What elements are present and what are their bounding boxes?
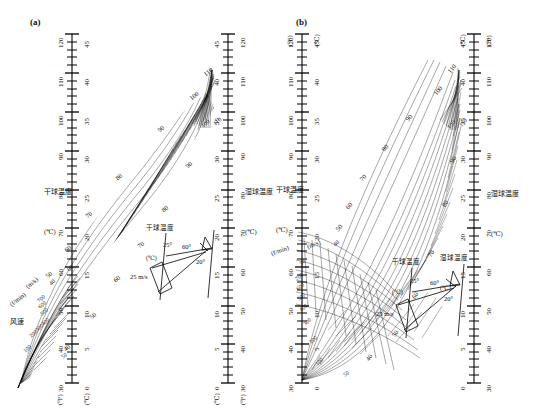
axis-b-right-title: 湿球温度 [491, 190, 500, 198]
axis-b-left-f-50: 50 [288, 308, 295, 315]
panel-a-inset [150, 230, 214, 300]
axis-b-left-f-70: 70 [288, 230, 295, 237]
axis-a-left-f-50: 50 [58, 308, 65, 315]
axis-b-right-c-25: 25 [460, 195, 467, 202]
inset-b-left-unit: (℃) [392, 288, 401, 296]
axis-b-left-c-5: 5 [314, 348, 321, 352]
axis-b-left-c-10: 10 [314, 311, 321, 318]
axis-b-left-c-30: 30 [314, 156, 321, 163]
inset-a-angle-60: 60° [182, 243, 191, 250]
axis-a-left-f-90: 90 [58, 153, 65, 160]
axis-b-left-unit-c: (℃) [314, 34, 321, 46]
windspeed-label-a: 风速 [10, 318, 19, 326]
axis-a-right-f-40: 40 [240, 346, 247, 353]
axis-b-right-c-20: 20 [460, 234, 467, 241]
axis-b-left-title: 干球温度 [276, 186, 285, 194]
panel-a-left-axis [65, 34, 79, 383]
axis-a-left-title: 干球温度 [44, 188, 53, 196]
axis-a-left-c-5: 5 [84, 348, 91, 352]
axis-a-left-f-100: 100 [58, 116, 65, 127]
axis-b-left-f-110: 110 [288, 77, 295, 87]
inset-a-speed: 25 m/s [130, 273, 148, 280]
panel-a-graphics [0, 0, 268, 413]
axis-a-right-f-30: 30 [240, 385, 247, 392]
axis-b-right-c-30: 30 [460, 156, 467, 163]
axis-a-right-c-15: 15 [214, 272, 221, 279]
axis-a-left-c-0: 0 [84, 387, 91, 391]
axis-b-right-f-40: 40 [486, 346, 493, 353]
panel-b-left-axis [295, 34, 309, 383]
axis-a-right-c-0: 0 [214, 387, 221, 391]
inset-b-angle-20: 20° [444, 295, 453, 302]
inset-b-angle-60: 60° [430, 279, 439, 286]
axis-a-right-unit-f: (°F) [240, 394, 247, 405]
axis-b-left-c-25: 25 [314, 195, 321, 202]
axis-a-left-f-120: 120 [58, 38, 65, 49]
axis-b-left-c-0: 0 [314, 387, 321, 391]
axis-a-right-f-60: 60 [240, 269, 247, 276]
axis-a-right-title-unit: (℃) [245, 228, 254, 236]
axis-a-left-f-60: 60 [58, 269, 65, 276]
axis-b-left-c-35: 35 [314, 118, 321, 125]
axis-b-left-title-unit: (℃) [276, 226, 285, 234]
axis-a-right-f-100: 100 [240, 116, 247, 127]
axis-b-right-f-50: 50 [486, 308, 493, 315]
axis-a-left-title-unit: (℃) [44, 228, 53, 236]
axis-a-left-c-35: 35 [84, 118, 91, 125]
axis-b-right-c-5: 5 [460, 348, 467, 352]
axis-a-right-c-5: 5 [214, 348, 221, 352]
panel-a: (a) [0, 0, 268, 413]
axis-a-right-c-30: 30 [214, 156, 221, 163]
inset-b-angle-25: 25° [410, 277, 419, 284]
axis-a-left-f-70: 70 [58, 230, 65, 237]
axis-b-left-c-40: 40 [314, 79, 321, 86]
axis-b-right-f-30: 30 [486, 385, 493, 392]
axis-b-right-c-0: 0 [460, 387, 467, 391]
axis-a-right-unit-c: (℃) [214, 393, 221, 405]
axis-b-right-title-unit: (℃) [491, 230, 500, 238]
axis-a-right-f-110: 110 [240, 77, 247, 87]
inset-a-angle-20: 20° [196, 258, 205, 265]
inset-a-left-title: 干球温度 [146, 224, 155, 232]
inset-b-speed: 25 m/s [376, 310, 394, 317]
panel-b: (b) [268, 0, 536, 413]
inset-a-left-unit: (℃) [146, 254, 155, 262]
axis-b-left-f-40: 40 [288, 346, 295, 353]
axis-b-left-f-60: 60 [288, 269, 295, 276]
axis-a-left-unit-f: (°F) [57, 394, 64, 405]
axis-a-right-c-40: 40 [214, 79, 221, 86]
axis-a-right-c-45: 45 [214, 41, 221, 48]
panel-b-hatch [312, 80, 461, 370]
panel-b-mesh [296, 60, 461, 380]
axis-b-right-c-40: 40 [460, 79, 467, 86]
axis-a-left-c-25: 25 [84, 195, 91, 202]
axis-b-left-f-100: 100 [288, 116, 295, 127]
figure-nomogram-pair: (a) [0, 0, 536, 413]
axis-a-left-c-20: 20 [84, 234, 91, 241]
axis-b-right-c-15: 15 [460, 272, 467, 279]
axis-a-left-f-110: 110 [58, 77, 65, 87]
inset-a-angle-25: 25° [163, 241, 172, 248]
axis-b-left-c-15: 15 [314, 272, 321, 279]
inset-b-left-title: 干球温度 [392, 258, 401, 266]
inset-b-right-title: 湿球温度 [440, 254, 449, 262]
panel-b-right-axis [467, 34, 481, 383]
axis-b-right-unit-f: (°F) [486, 35, 493, 46]
panel-a-right-axis [221, 34, 235, 383]
axis-a-left-c-40: 40 [84, 79, 91, 86]
axis-b-right-f-110: 110 [486, 77, 493, 87]
axis-b-right-f-60: 60 [486, 269, 493, 276]
axis-a-left-c-15: 15 [84, 272, 91, 279]
axis-a-left-f-30: 30 [58, 385, 65, 392]
axis-b-left-f-90: 90 [288, 153, 295, 160]
axis-a-left-unit-c: (℃) [84, 393, 91, 405]
inset-b-right-unit: (℃) [440, 284, 449, 292]
axis-a-right-c-25: 25 [214, 195, 221, 202]
axis-b-right-f-90: 90 [486, 153, 493, 160]
axis-b-left-unit-f: (°F) [287, 35, 294, 46]
axis-a-right-c-10: 10 [214, 311, 221, 318]
axis-b-left-f-30: 30 [288, 385, 295, 392]
axis-a-right-f-120: 120 [240, 38, 247, 49]
panel-b-graphics [268, 0, 536, 413]
axis-a-left-c-45: 45 [84, 41, 91, 48]
